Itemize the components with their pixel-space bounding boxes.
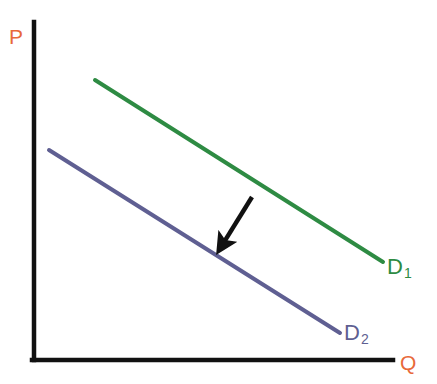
- curve-label-d2: D2: [344, 322, 368, 344]
- demand-curve-d2: [49, 150, 340, 333]
- plot-area: [0, 0, 437, 384]
- curve-label-d1: D1: [387, 256, 411, 278]
- curve-label-d2-main: D: [344, 320, 360, 345]
- curve-label-d1-main: D: [387, 254, 403, 279]
- demand-shift-diagram: P Q D1 D2: [0, 0, 437, 384]
- y-axis-label: P: [9, 26, 23, 47]
- curve-label-d2-subscript: 2: [361, 331, 369, 347]
- curve-label-d1-subscript: 1: [404, 265, 412, 281]
- demand-curve-d1: [95, 80, 383, 262]
- shift-arrow-icon: [224, 197, 252, 242]
- x-axis-label: Q: [400, 352, 416, 373]
